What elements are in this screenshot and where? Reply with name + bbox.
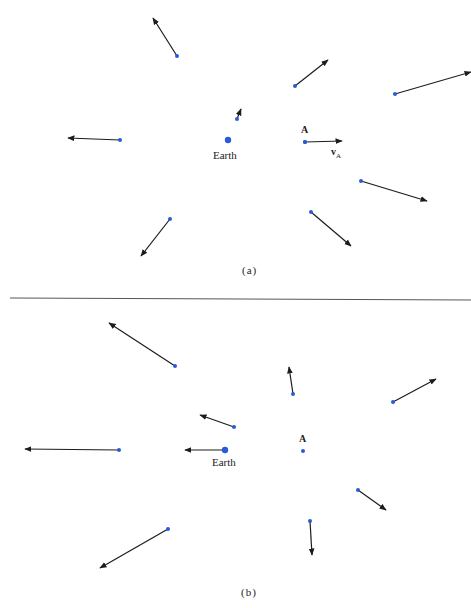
velocity-arrow [100,529,168,568]
particle-dot [117,448,121,452]
point-a-label-b: A [299,433,306,444]
velocity-arrow [68,138,120,140]
velocity-arrow [25,449,119,450]
velocity-field-diagram [0,0,471,608]
particle-dot [232,425,236,429]
velocity-arrow [153,18,177,56]
point-a-dot [301,449,305,453]
panel-b-a-frame [25,323,436,568]
velocity-arrow [358,490,386,510]
particle-dot [391,400,395,404]
particle-dot [393,92,397,96]
velocity-arrow [200,415,234,427]
particle-dot [356,488,360,492]
particle-dot [308,519,312,523]
particle-dot [235,117,239,121]
velocity-arrow [109,323,175,366]
particle-dot [173,364,177,368]
velocity-arrow [141,219,170,256]
panel-divider [10,298,471,300]
point-a-label-a: A [301,124,308,135]
particle-dot [359,179,363,183]
earth-dot [225,137,231,143]
earth-label-b: Earth [212,456,236,468]
caption-b: (b) [241,586,257,598]
particle-dot [291,392,295,396]
velocity-arrow [310,521,312,555]
particle-dot [309,210,313,214]
point-a-dot [303,140,307,144]
velocity-arrow [395,72,471,94]
velocity-arrow [295,60,328,86]
velocity-a-label: vA [331,146,341,160]
particle-dot [168,217,172,221]
velocity-arrow [305,141,342,142]
velocity-arrow [289,367,293,394]
particle-dot [175,54,179,58]
particle-dot [166,527,170,531]
earth-label-a: Earth [213,149,237,161]
earth-dot [222,447,228,453]
particle-dot [293,84,297,88]
panel-a-earth-frame [68,18,471,256]
caption-a: (a) [242,264,257,276]
velocity-arrow [311,212,351,246]
particle-dot [118,138,122,142]
velocity-arrow [393,379,436,402]
velocity-arrow [361,181,427,201]
